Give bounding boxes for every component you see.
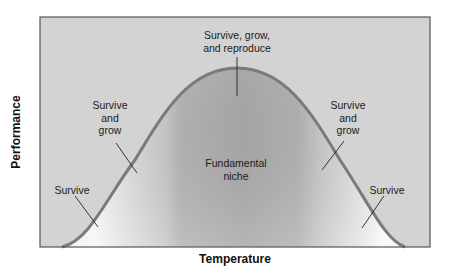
- label-left-survive: Survive: [54, 184, 89, 197]
- label-peak: Survive, grow, and reproduce: [203, 29, 271, 54]
- y-axis-title: Performance: [9, 95, 23, 168]
- x-axis-title: Temperature: [199, 252, 271, 266]
- label-right-survive-grow: Survive and grow: [330, 99, 365, 137]
- label-right-survive: Survive: [369, 184, 404, 197]
- label-left-survive-grow: Survive and grow: [92, 99, 127, 137]
- label-fundamental-niche: Fundamental niche: [205, 157, 266, 182]
